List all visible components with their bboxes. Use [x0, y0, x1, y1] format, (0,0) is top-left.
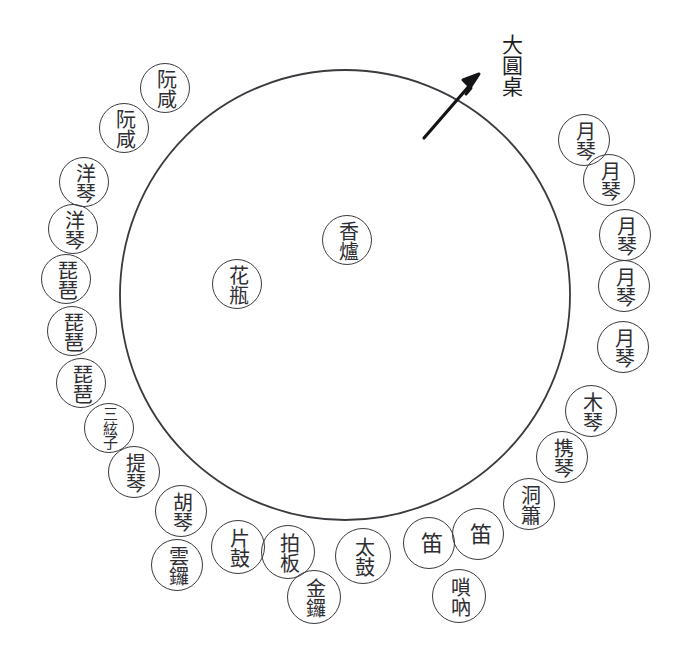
seat-di[interactable]: 笛 [452, 508, 504, 560]
seat-label: 笛 [418, 532, 439, 554]
seat-label: 雲鑼 [167, 546, 186, 585]
seat-yueqin[interactable]: 月琴 [598, 260, 650, 312]
seat-label: 金鑼 [304, 578, 323, 617]
table-object-label: 花瓶 [227, 265, 246, 304]
seat-yueqin[interactable]: 月琴 [597, 321, 649, 373]
seat-sanxianzi[interactable]: 三絃子 [84, 403, 134, 453]
table-callout-label: 大圓桌 [500, 34, 521, 97]
seat-suona[interactable]: 嗩吶 [432, 569, 486, 623]
seat-di[interactable]: 笛 [403, 517, 455, 569]
seat-label: 月琴 [599, 161, 618, 200]
seat-yueqin[interactable]: 月琴 [558, 114, 610, 166]
seat-pipa[interactable]: 琵琶 [47, 306, 97, 356]
table-pointer-arrow [424, 74, 479, 138]
seat-jinluo[interactable]: 金鑼 [287, 570, 341, 624]
seat-yueqin[interactable]: 月琴 [599, 209, 651, 261]
seat-label: 携琴 [552, 438, 571, 477]
seat-label: 月琴 [614, 267, 633, 306]
seat-pipa[interactable]: 琵琶 [41, 254, 91, 304]
table-object-incense-burner[interactable]: 香爐 [322, 215, 372, 265]
seat-taigu[interactable]: 太鼓 [335, 528, 391, 584]
diagram-canvas: 大圓桌 香爐花瓶 阮咸阮咸洋琴洋琴琵琶琵琶琵琶三絃子提琴胡琴雲鑼片鼓拍板金鑼太鼓… [0, 0, 689, 663]
seat-label: 琵琶 [71, 364, 90, 403]
seat-label: 洋琴 [63, 210, 82, 249]
seat-label: 笛 [467, 523, 488, 545]
seat-label: 琵琶 [62, 312, 81, 351]
seat-label: 三絃子 [102, 406, 116, 450]
seat-label: 琵琶 [56, 260, 75, 299]
seat-muqin[interactable]: 木琴 [565, 385, 617, 437]
seat-pipa[interactable]: 琵琶 [56, 358, 106, 408]
seat-label: 太鼓 [353, 537, 372, 576]
seat-label: 月琴 [613, 328, 632, 367]
seat-label: 洋琴 [74, 163, 93, 202]
seat-label: 片鼓 [228, 528, 247, 567]
seat-ruanxian[interactable]: 阮咸 [99, 103, 149, 153]
large-round-table [120, 70, 570, 520]
seat-xieqin[interactable]: 携琴 [536, 431, 588, 483]
seat-label: 木琴 [581, 392, 600, 431]
seat-piangu[interactable]: 片鼓 [211, 520, 265, 574]
table-object-flower-vase[interactable]: 花瓶 [212, 259, 262, 309]
seat-label: 阮咸 [155, 69, 174, 108]
seat-yangqin[interactable]: 洋琴 [48, 204, 98, 254]
seat-label: 胡琴 [171, 492, 190, 531]
seat-huqin[interactable]: 胡琴 [155, 485, 207, 537]
seat-label: 阮咸 [114, 109, 133, 148]
seat-label: 月琴 [615, 216, 634, 255]
seat-label: 嗩吶 [449, 577, 468, 616]
seat-label: 提琴 [124, 453, 143, 492]
seat-ruanxian[interactable]: 阮咸 [140, 63, 190, 113]
seat-dongxiao[interactable]: 洞簫 [503, 478, 555, 530]
seat-label: 月琴 [574, 121, 593, 160]
seat-label: 拍板 [278, 533, 297, 572]
table-object-label: 香爐 [337, 221, 356, 260]
seat-tiqin[interactable]: 提琴 [108, 446, 160, 498]
seat-yunluo[interactable]: 雲鑼 [151, 539, 203, 591]
seat-label: 洞簫 [519, 485, 538, 524]
seat-yangqin[interactable]: 洋琴 [59, 157, 109, 207]
